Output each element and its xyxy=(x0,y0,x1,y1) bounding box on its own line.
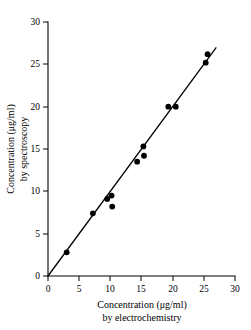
y-axis-title-line2: by spectroscopy xyxy=(18,117,29,182)
data-point xyxy=(205,51,211,57)
data-point xyxy=(140,144,146,150)
x-tick-label-5: 5 xyxy=(77,284,82,294)
chart-canvas: 0 5 10 15 20 25 30 0 5 10 15 20 25 30 xyxy=(0,0,251,330)
data-point xyxy=(109,204,115,210)
y-tick-label-25: 25 xyxy=(31,59,41,69)
y-tick-label-15: 15 xyxy=(31,144,41,154)
data-point xyxy=(64,249,70,255)
x-axis-title-line2: by electrochemistry xyxy=(102,312,181,323)
data-point xyxy=(90,210,96,216)
y-tick-label-0: 0 xyxy=(35,271,40,281)
y-tick-label-30: 30 xyxy=(31,17,41,27)
scatter-plot-figure: 0 5 10 15 20 25 30 0 5 10 15 20 25 30 xyxy=(0,0,251,330)
x-tick-label-0: 0 xyxy=(46,284,51,294)
data-point xyxy=(165,104,171,110)
x-tick-label-25: 25 xyxy=(199,284,209,294)
x-tick-label-15: 15 xyxy=(136,284,146,294)
data-point xyxy=(203,60,209,66)
data-point xyxy=(173,104,179,110)
y-tick-label-5: 5 xyxy=(35,229,40,239)
x-tick-label-20: 20 xyxy=(168,284,178,294)
x-tick-label-30: 30 xyxy=(230,284,240,294)
x-axis-title-line1: Concentration (μg/ml) xyxy=(97,299,187,311)
y-tick-label-20: 20 xyxy=(31,102,41,112)
data-point xyxy=(141,153,147,159)
x-tick-label-10: 10 xyxy=(105,284,115,294)
data-point xyxy=(134,159,140,165)
data-point xyxy=(109,193,115,199)
y-tick-label-10: 10 xyxy=(31,186,41,196)
y-axis-title-line1: Concentration (μg/ml) xyxy=(5,104,17,194)
